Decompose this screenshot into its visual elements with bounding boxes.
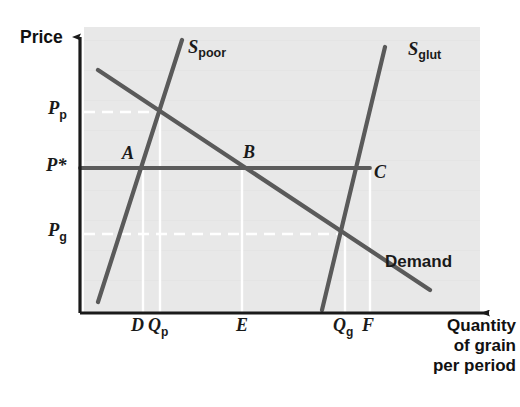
y-tick-pg-subscript: g: [59, 230, 67, 244]
x-axis-title-line2: of grain: [430, 336, 516, 356]
y-tick-pp-subscript: p: [59, 108, 67, 122]
x-tick-qp-subscript: p: [161, 325, 168, 339]
x-tick-label-d: D: [131, 316, 144, 335]
y-tick-pp-symbol: P: [48, 98, 59, 118]
point-label-b: B: [243, 143, 255, 162]
x-tick-f-symbol: F: [362, 315, 374, 335]
y-tick-pg-symbol: P: [48, 220, 59, 240]
y-tick-label-pg: Pg: [48, 221, 67, 244]
x-tick-qg-subscript: g: [346, 325, 353, 339]
x-tick-label-e: E: [236, 316, 248, 335]
y-axis-title: Price: [20, 28, 63, 46]
x-tick-e-symbol: E: [236, 315, 248, 335]
point-label-a: A: [122, 144, 134, 163]
x-tick-qg-symbol: Q: [333, 315, 346, 335]
x-axis-title-line1: Quantity: [430, 316, 516, 336]
point-label-c: C: [374, 163, 386, 182]
figure-canvas: Price Quantity of grain per period Pp P*…: [0, 0, 520, 407]
curve-label-demand: Demand: [385, 253, 452, 271]
x-tick-d-symbol: D: [131, 315, 144, 335]
y-tick-label-pstar: P*: [46, 156, 67, 175]
x-axis-title-line3: per period: [430, 356, 516, 376]
curve-label-s-glut: Sglut: [408, 40, 441, 63]
x-tick-qp-symbol: Q: [148, 315, 161, 335]
curve-label-s-glut-subscript: glut: [418, 48, 441, 62]
y-tick-label-pp: Pp: [48, 99, 67, 122]
curve-label-s-glut-symbol: S: [408, 39, 418, 59]
x-tick-label-qp: Qp: [148, 316, 168, 338]
x-axis-title: Quantity of grain per period: [430, 316, 516, 376]
y-tick-pstar-symbol: P: [46, 155, 57, 175]
curve-label-s-poor-symbol: S: [188, 37, 198, 57]
x-tick-label-qg: Qg: [333, 316, 353, 338]
curve-label-s-poor: Spoor: [188, 38, 226, 61]
y-tick-pstar-subscript: *: [57, 155, 66, 175]
curve-label-s-poor-subscript: poor: [198, 46, 226, 60]
x-tick-label-f: F: [362, 316, 374, 335]
